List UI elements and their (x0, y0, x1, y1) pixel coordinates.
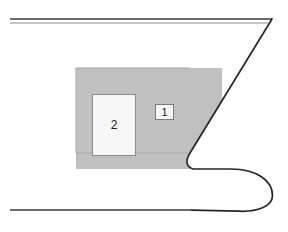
callout-label-2-text: 2 (111, 119, 118, 131)
callout-label-1[interactable]: 1 (155, 104, 174, 120)
figure-canvas: 1 2 (0, 0, 288, 232)
figure-vector-graphic (0, 0, 288, 232)
callout-label-2[interactable]: 2 (92, 94, 136, 156)
callout-label-1-text: 1 (161, 107, 167, 118)
